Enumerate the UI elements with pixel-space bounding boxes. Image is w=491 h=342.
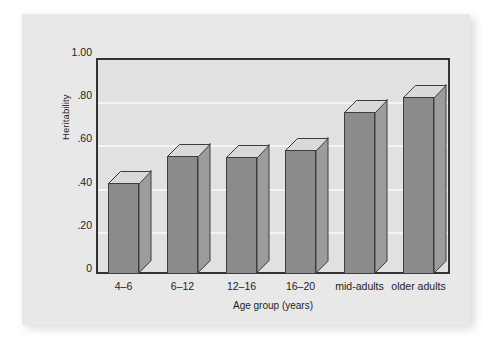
bar bbox=[167, 144, 210, 274]
chart-figure: 1.00.80.60.40.200 Heritability 4–66–1212… bbox=[0, 0, 491, 342]
x-axis-title: Age group (years) bbox=[96, 300, 450, 311]
bar-front-face bbox=[344, 112, 375, 274]
bar-front-face bbox=[226, 157, 257, 274]
y-axis-tick-labels: 1.00.80.60.40.200 bbox=[44, 52, 92, 280]
x-axis-tick-label: older adults bbox=[374, 280, 464, 293]
bar-side-face bbox=[316, 137, 329, 274]
bar-side-face bbox=[198, 143, 211, 274]
bar-front-face bbox=[167, 156, 198, 274]
bar bbox=[344, 100, 387, 274]
bar bbox=[108, 171, 151, 274]
y-axis-tick-label: 1.00 bbox=[44, 46, 92, 58]
bar bbox=[285, 138, 328, 274]
y-axis-tick-label: 0 bbox=[44, 262, 92, 274]
bar-side-face bbox=[434, 84, 447, 274]
bar bbox=[403, 85, 446, 274]
y-axis-title: Heritability bbox=[60, 94, 71, 140]
bar-side-face bbox=[139, 170, 152, 274]
bar-front-face bbox=[285, 150, 316, 274]
bar-side-face bbox=[375, 99, 388, 274]
x-axis-tick-labels: 4–66–1212–1616–20mid-adultsolder adults bbox=[96, 280, 466, 296]
bar-side-face bbox=[257, 144, 270, 274]
bars-layer bbox=[96, 58, 450, 274]
chart-panel: 1.00.80.60.40.200 Heritability 4–66–1212… bbox=[22, 14, 470, 325]
y-axis-tick-label: .20 bbox=[44, 219, 92, 231]
bar-front-face bbox=[108, 183, 139, 274]
bar-front-face bbox=[403, 97, 434, 274]
bar bbox=[226, 145, 269, 274]
y-axis-tick-label: .40 bbox=[44, 176, 92, 188]
